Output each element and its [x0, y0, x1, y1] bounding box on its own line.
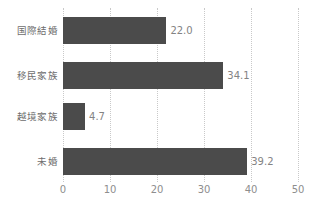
bar-3[interactable] [63, 148, 247, 175]
bar-row-1: 34.1 [63, 62, 298, 89]
xtick-label-2: 20 [151, 184, 164, 195]
category-label-0: 国際結婚 [0, 17, 58, 44]
value-axis: 0 10 20 30 40 50 [63, 184, 298, 204]
bar-2[interactable] [63, 103, 85, 130]
bar-value-3: 39.2 [247, 148, 273, 175]
xtick-label-0: 0 [60, 184, 66, 195]
category-label-3: 未婚 [0, 148, 58, 175]
bar-row-2: 4.7 [63, 103, 298, 130]
bar-value-2: 4.7 [85, 103, 105, 130]
category-axis: 国際結婚 移民家族 越境家族 未婚 [0, 8, 58, 182]
bar-row-3: 39.2 [63, 148, 298, 175]
category-label-1: 移民家族 [0, 62, 58, 89]
category-label-2: 越境家族 [0, 103, 58, 130]
bar-value-0: 22.0 [166, 17, 192, 44]
xtick-label-4: 40 [245, 184, 258, 195]
xtick-label-3: 30 [198, 184, 211, 195]
bar-1[interactable] [63, 62, 223, 89]
bar-row-0: 22.0 [63, 17, 298, 44]
xtick-label-5: 50 [292, 184, 305, 195]
bar-value-1: 34.1 [223, 62, 249, 89]
xtick-label-1: 10 [104, 184, 117, 195]
bar-0[interactable] [63, 17, 166, 44]
gridline-50 [298, 8, 299, 182]
bar-chart: 国際結婚 移民家族 越境家族 未婚 22.0 34.1 4.7 39.2 [0, 0, 322, 212]
plot-area: 22.0 34.1 4.7 39.2 [63, 8, 298, 182]
